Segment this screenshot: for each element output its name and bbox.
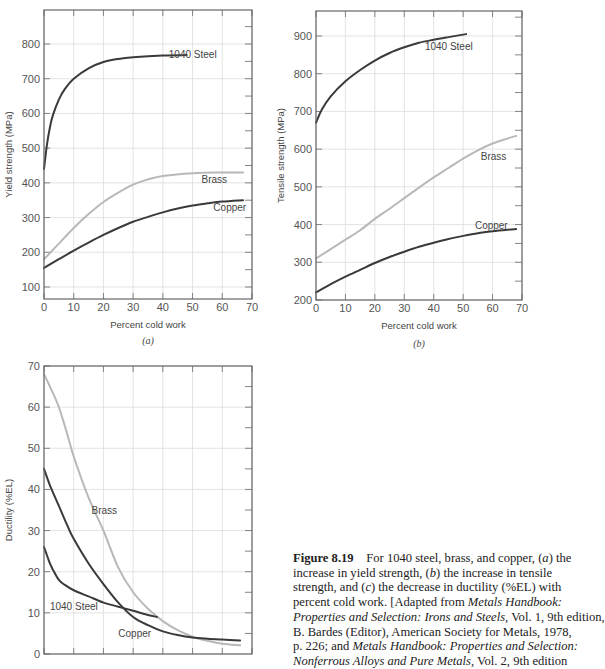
y-tick-label: 50	[28, 442, 40, 454]
y-axis-label: Ductility (%EL)	[3, 479, 14, 541]
series-1040-steel-label: 1040 Steel	[169, 49, 217, 60]
series-brass-label: Brass	[481, 151, 507, 162]
x-tick-label: 50	[186, 658, 198, 660]
y-tick-label: 800	[22, 38, 40, 50]
y-tick-label: 900	[294, 30, 312, 42]
tick-marks	[44, 10, 252, 299]
series-copper-label: Copper	[475, 220, 508, 231]
y-tick-label: 10	[28, 607, 40, 619]
x-tick-label: 40	[428, 302, 440, 314]
panel-label: (b)	[413, 338, 425, 350]
y-tick-label: 500	[294, 181, 312, 193]
x-tick-label: 0	[313, 302, 319, 314]
caption-line: B. Bardes (Editor), American Society for…	[293, 625, 593, 640]
x-tick-label: 70	[246, 301, 258, 313]
x-tick-label: 0	[41, 658, 47, 660]
y-tick-label: 70	[28, 360, 40, 372]
caption-line: strength, and (c) the decrease in ductil…	[293, 580, 593, 595]
y-tick-label: 700	[294, 105, 312, 117]
x-tick-label: 60	[216, 658, 228, 660]
caption-line: Nonferrous Alloys and Pure Metals, Vol. …	[293, 654, 593, 669]
x-tick-label: 60	[216, 301, 228, 313]
series-1040-steel-label: 1040 Steel	[425, 41, 473, 52]
series-brass-label: Brass	[92, 505, 118, 516]
y-tick-label: 400	[22, 177, 40, 189]
caption-line: percent cold work. [Adapted from Metals …	[293, 595, 593, 610]
y-tick-label: 20	[28, 566, 40, 578]
y-tick-label: 60	[28, 401, 40, 413]
chart-c: BrassCopper1040 Steel0102030405060700102…	[3, 360, 258, 660]
y-tick-label: 0	[34, 648, 40, 660]
series-1040-steel-line	[44, 55, 187, 169]
x-tick-label: 10	[68, 301, 80, 313]
chart-a: 1040 SteelBrassCopper1002003004005006007…	[3, 10, 258, 347]
plot-frame	[44, 10, 252, 299]
y-tick-label: 100	[22, 281, 40, 293]
caption-line: Figure 8.19 For 1040 steel, brass, and c…	[293, 551, 593, 566]
x-tick-label: 30	[398, 302, 410, 314]
x-tick-label: 40	[157, 658, 169, 660]
y-tick-label: 600	[22, 107, 40, 119]
y-tick-label: 200	[22, 246, 40, 258]
y-tick-label: 700	[22, 73, 40, 85]
chart-b: 1040 SteelBrassCopper2003004005006007008…	[275, 11, 528, 350]
y-tick-label: 300	[294, 256, 312, 268]
grid	[44, 10, 252, 299]
panel-label: (a)	[142, 335, 154, 347]
x-tick-label: 10	[339, 302, 351, 314]
caption-line: increase in yield strength, (b) the incr…	[293, 566, 593, 581]
series-brass-label: Brass	[201, 174, 227, 185]
caption-line: p. 226; and Metals Handbook: Properties …	[293, 639, 593, 654]
x-tick-label: 20	[97, 658, 109, 660]
figure-caption: Figure 8.19 For 1040 steel, brass, and c…	[293, 551, 593, 669]
x-tick-label: 20	[97, 301, 109, 313]
y-tick-label: 300	[22, 212, 40, 224]
x-tick-label: 50	[457, 302, 469, 314]
y-axis-label: Yield strength (MPa)	[3, 111, 14, 197]
x-tick-label: 0	[41, 301, 47, 313]
y-tick-label: 400	[294, 219, 312, 231]
x-axis-label: Percent cold work	[110, 319, 186, 330]
x-tick-label: 60	[486, 302, 498, 314]
x-tick-label: 70	[516, 302, 528, 314]
figure-number: Figure 8.19	[293, 551, 366, 565]
series-copper-label: Copper	[118, 628, 151, 639]
y-tick-label: 800	[294, 68, 312, 80]
caption-line: Properties and Selection: Irons and Stee…	[293, 610, 593, 625]
y-axis-label: Tensile strength (MPa)	[275, 108, 286, 203]
series-1040-steel-label: 1040 Steel	[50, 601, 98, 612]
x-tick-label: 70	[246, 658, 258, 660]
x-tick-label: 50	[186, 301, 198, 313]
x-tick-label: 10	[68, 658, 80, 660]
x-axis-label: Percent cold work	[381, 320, 457, 331]
y-tick-label: 40	[28, 483, 40, 495]
x-tick-label: 40	[157, 301, 169, 313]
x-tick-label: 30	[127, 301, 139, 313]
series-copper-label: Copper	[213, 202, 246, 213]
y-tick-label: 30	[28, 525, 40, 537]
x-tick-label: 30	[127, 658, 139, 660]
x-tick-label: 20	[369, 302, 381, 314]
y-tick-label: 200	[294, 294, 312, 306]
y-tick-label: 500	[22, 142, 40, 154]
y-tick-label: 600	[294, 143, 312, 155]
